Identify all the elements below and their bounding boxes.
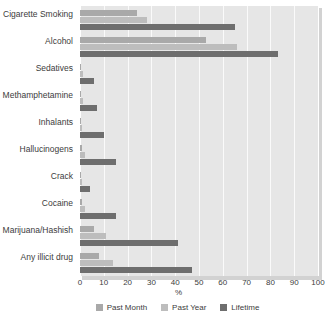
bar-group <box>80 222 318 249</box>
bar <box>80 186 90 192</box>
bar-group <box>80 195 318 222</box>
x-axis-tick: 100 <box>311 278 324 287</box>
x-axis-title-text: % <box>175 288 182 297</box>
x-axis-tick: 20 <box>123 278 132 287</box>
bar <box>80 179 82 185</box>
bar <box>80 233 106 239</box>
bar <box>80 98 83 104</box>
bar-group <box>80 114 318 141</box>
y-axis-label: Marijuana/Hashish <box>3 225 73 235</box>
x-axis-tick: 90 <box>290 278 299 287</box>
bar <box>80 78 94 84</box>
bar <box>80 159 116 165</box>
bar-group <box>80 33 318 60</box>
y-axis-label: Methamphetamine <box>3 90 73 100</box>
bar <box>80 118 81 124</box>
bar-group <box>80 6 318 33</box>
bar <box>80 145 82 151</box>
x-axis-tick: 10 <box>99 278 108 287</box>
chart-legend: Past MonthPast YearLifetime <box>0 303 329 312</box>
x-axis-tick: 0 <box>78 278 82 287</box>
bar-group <box>80 168 318 195</box>
bar-group <box>80 60 318 87</box>
legend-item[interactable]: Past Month <box>96 303 147 312</box>
bar <box>80 226 94 232</box>
x-axis-title: % <box>0 288 329 297</box>
bar-group <box>80 141 318 168</box>
bar <box>80 17 147 23</box>
bar <box>80 24 235 30</box>
bar <box>80 91 81 97</box>
bar <box>80 105 97 111</box>
y-axis-label: Alcohol <box>45 36 73 46</box>
bar <box>80 260 113 266</box>
x-axis-tick: 70 <box>242 278 251 287</box>
y-axis-label: Sedatives <box>36 63 73 73</box>
legend-label: Past Year <box>172 303 206 312</box>
bar <box>80 199 82 205</box>
plot-area <box>80 6 318 276</box>
y-axis-label: Crack <box>51 171 73 181</box>
bar <box>80 172 81 178</box>
x-axis-tick: 30 <box>147 278 156 287</box>
y-axis-label: Hallucinogens <box>20 144 73 154</box>
y-axis-label: Cocaine <box>42 198 73 208</box>
bar <box>80 51 278 57</box>
legend-swatch-icon <box>96 304 103 311</box>
bar <box>80 64 81 70</box>
bar-group <box>80 249 318 276</box>
bar <box>80 240 178 246</box>
y-axis-label: Inhalants <box>39 117 74 127</box>
bar <box>80 71 83 77</box>
legend-swatch-icon <box>220 304 227 311</box>
legend-swatch-icon <box>161 304 168 311</box>
bar <box>80 267 192 273</box>
bar <box>80 44 237 50</box>
bar <box>80 206 85 212</box>
x-axis-tick: 40 <box>171 278 180 287</box>
y-axis-labels: Cigarette SmokingAlcoholSedativesMethamp… <box>0 6 77 276</box>
y-axis-label: Any illicit drug <box>21 252 73 262</box>
legend-item[interactable]: Past Year <box>161 303 206 312</box>
bar-chart: Cigarette SmokingAlcoholSedativesMethamp… <box>0 0 329 326</box>
bar <box>80 132 104 138</box>
bar <box>80 125 82 131</box>
bar-group <box>80 87 318 114</box>
legend-item[interactable]: Lifetime <box>220 303 259 312</box>
bar-rows <box>80 6 318 276</box>
bar <box>80 152 85 158</box>
bar <box>80 10 137 16</box>
gridline <box>318 6 319 276</box>
legend-label: Past Month <box>107 303 147 312</box>
bar <box>80 213 116 219</box>
y-axis-label: Cigarette Smoking <box>3 9 73 19</box>
x-axis-tick: 60 <box>218 278 227 287</box>
x-axis-tick: 80 <box>266 278 275 287</box>
bar <box>80 253 99 259</box>
legend-label: Lifetime <box>231 303 259 312</box>
x-axis-tick: 50 <box>195 278 204 287</box>
bar <box>80 37 206 43</box>
